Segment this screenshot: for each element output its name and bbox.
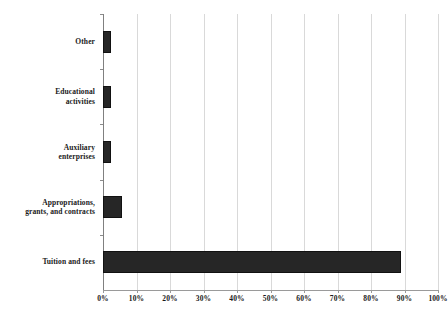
x-axis-tick-label: 80% (363, 294, 378, 303)
y-axis-label: Appropriations,grants, and contracts (0, 198, 95, 217)
y-axis-tick (100, 124, 103, 125)
y-axis-tick (100, 235, 103, 236)
bar (103, 251, 401, 273)
x-axis-tick (405, 290, 406, 293)
x-axis-tick (204, 290, 205, 293)
y-axis-label: Educationalactivities (0, 87, 95, 106)
y-axis-label: Auxiliaryenterprises (0, 143, 95, 162)
x-axis-tick (237, 290, 238, 293)
x-axis-tick (438, 290, 439, 293)
x-axis-tick-label: 40% (229, 294, 244, 303)
bar (103, 141, 111, 163)
y-axis-tick (100, 69, 103, 70)
plot-area (103, 14, 438, 290)
x-axis-tick (170, 290, 171, 293)
y-axis-label-line: grants, and contracts (0, 207, 95, 217)
x-axis-tick (271, 290, 272, 293)
x-axis-tick-label: 50% (263, 294, 278, 303)
x-axis-tick (338, 290, 339, 293)
bar-chart: OtherEducationalactivitiesAuxiliaryenter… (0, 0, 448, 314)
x-axis-tick (304, 290, 305, 293)
y-axis-tick (100, 14, 103, 15)
bar-row (103, 141, 438, 163)
x-axis-tick-label: 20% (162, 294, 177, 303)
y-axis-category-labels: OtherEducationalactivitiesAuxiliaryenter… (0, 14, 99, 290)
bar (103, 196, 122, 218)
x-axis-tick-label: 90% (397, 294, 412, 303)
bar (103, 31, 111, 53)
bar (103, 86, 111, 108)
gridline-100 (438, 14, 439, 290)
y-axis-label: Tuition and fees (0, 257, 95, 267)
y-axis-label-line: Tuition and fees (0, 257, 95, 267)
x-axis-tick-label: 10% (129, 294, 144, 303)
y-axis-tick (100, 180, 103, 181)
x-axis-tick-labels: 0%10%20%30%40%50%60%70%80%90%100% (0, 294, 448, 308)
y-axis-label-line: Auxiliary (0, 143, 95, 153)
x-axis-tick-label: 60% (296, 294, 311, 303)
y-axis-label-line: activities (0, 97, 95, 107)
y-axis-label: Other (0, 37, 95, 47)
x-axis-tick (371, 290, 372, 293)
x-axis-tick-label: 0% (97, 294, 108, 303)
x-axis-tick-label: 30% (196, 294, 211, 303)
bar-series (103, 14, 438, 290)
y-axis-label-line: enterprises (0, 152, 95, 162)
bar-row (103, 196, 438, 218)
bar-row (103, 31, 438, 53)
x-axis-tick (103, 290, 104, 293)
y-axis-label-line: Other (0, 37, 95, 47)
x-axis-tick (137, 290, 138, 293)
x-axis-tick-label: 70% (330, 294, 345, 303)
y-axis-label-line: Educational (0, 87, 95, 97)
bar-row (103, 251, 438, 273)
bar-row (103, 86, 438, 108)
y-axis-label-line: Appropriations, (0, 198, 95, 208)
x-axis-tick-label: 100% (428, 294, 447, 303)
